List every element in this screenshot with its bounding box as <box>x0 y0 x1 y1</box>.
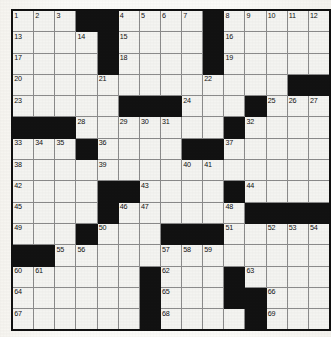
answer-cell[interactable] <box>76 309 97 331</box>
answer-cell[interactable] <box>139 160 160 181</box>
answer-cell[interactable]: 27 <box>308 96 330 117</box>
answer-cell[interactable] <box>245 223 266 244</box>
answer-cell[interactable] <box>266 266 287 287</box>
answer-cell[interactable] <box>308 138 330 159</box>
answer-cell[interactable] <box>139 223 160 244</box>
answer-cell[interactable] <box>287 287 308 308</box>
answer-cell[interactable]: 68 <box>160 309 181 331</box>
answer-cell[interactable] <box>266 181 287 202</box>
answer-cell[interactable]: 69 <box>266 309 287 331</box>
answer-cell[interactable] <box>245 74 266 95</box>
answer-cell[interactable] <box>97 117 118 138</box>
answer-cell[interactable]: 55 <box>55 245 76 266</box>
answer-cell[interactable] <box>308 32 330 53</box>
answer-cell[interactable]: 60 <box>12 266 34 287</box>
answer-cell[interactable] <box>245 53 266 74</box>
answer-cell[interactable]: 49 <box>12 223 34 244</box>
answer-cell[interactable] <box>55 287 76 308</box>
answer-cell[interactable] <box>118 160 139 181</box>
answer-cell[interactable] <box>203 287 224 308</box>
answer-cell[interactable] <box>308 181 330 202</box>
answer-cell[interactable] <box>266 32 287 53</box>
answer-cell[interactable] <box>76 74 97 95</box>
answer-cell[interactable] <box>203 309 224 331</box>
answer-cell[interactable]: 44 <box>245 181 266 202</box>
crossword-puzzle[interactable]: 1234567891011121314151617181920212223242… <box>11 9 331 331</box>
answer-cell[interactable]: 62 <box>160 266 181 287</box>
answer-cell[interactable]: 61 <box>34 266 55 287</box>
answer-cell[interactable] <box>97 287 118 308</box>
answer-cell[interactable] <box>76 53 97 74</box>
answer-cell[interactable] <box>182 287 203 308</box>
answer-cell[interactable] <box>287 309 308 331</box>
answer-cell[interactable]: 21 <box>97 74 118 95</box>
answer-cell[interactable]: 9 <box>245 10 266 32</box>
answer-cell[interactable] <box>308 287 330 308</box>
answer-cell[interactable] <box>266 138 287 159</box>
answer-cell[interactable] <box>182 117 203 138</box>
answer-cell[interactable] <box>139 138 160 159</box>
answer-cell[interactable] <box>139 74 160 95</box>
answer-cell[interactable] <box>55 202 76 223</box>
answer-cell[interactable]: 5 <box>139 10 160 32</box>
answer-cell[interactable]: 22 <box>203 74 224 95</box>
answer-cell[interactable] <box>118 287 139 308</box>
answer-cell[interactable]: 33 <box>12 138 34 159</box>
answer-cell[interactable] <box>34 309 55 331</box>
answer-cell[interactable] <box>245 160 266 181</box>
answer-cell[interactable] <box>118 266 139 287</box>
answer-cell[interactable] <box>55 223 76 244</box>
answer-cell[interactable] <box>34 74 55 95</box>
answer-cell[interactable]: 11 <box>287 10 308 32</box>
answer-cell[interactable]: 20 <box>12 74 34 95</box>
answer-cell[interactable] <box>34 160 55 181</box>
answer-cell[interactable]: 23 <box>12 96 34 117</box>
answer-cell[interactable]: 31 <box>160 117 181 138</box>
answer-cell[interactable] <box>97 309 118 331</box>
answer-cell[interactable]: 17 <box>12 53 34 74</box>
answer-cell[interactable]: 28 <box>76 117 97 138</box>
answer-cell[interactable] <box>287 117 308 138</box>
answer-cell[interactable] <box>34 181 55 202</box>
answer-cell[interactable] <box>182 32 203 53</box>
answer-cell[interactable] <box>308 309 330 331</box>
answer-cell[interactable] <box>203 181 224 202</box>
answer-cell[interactable]: 36 <box>97 138 118 159</box>
answer-cell[interactable]: 47 <box>139 202 160 223</box>
answer-cell[interactable] <box>160 202 181 223</box>
answer-cell[interactable] <box>203 96 224 117</box>
answer-cell[interactable]: 66 <box>266 287 287 308</box>
answer-cell[interactable] <box>245 138 266 159</box>
answer-cell[interactable] <box>160 138 181 159</box>
answer-cell[interactable] <box>245 32 266 53</box>
answer-cell[interactable] <box>55 53 76 74</box>
answer-cell[interactable] <box>287 181 308 202</box>
answer-cell[interactable] <box>266 74 287 95</box>
answer-cell[interactable] <box>224 245 245 266</box>
answer-cell[interactable] <box>55 32 76 53</box>
answer-cell[interactable]: 7 <box>182 10 203 32</box>
answer-cell[interactable] <box>266 245 287 266</box>
answer-cell[interactable] <box>55 74 76 95</box>
answer-cell[interactable]: 3 <box>55 10 76 32</box>
answer-cell[interactable] <box>76 202 97 223</box>
answer-cell[interactable]: 24 <box>182 96 203 117</box>
answer-cell[interactable] <box>182 53 203 74</box>
answer-cell[interactable] <box>182 309 203 331</box>
answer-cell[interactable] <box>287 138 308 159</box>
answer-cell[interactable] <box>182 266 203 287</box>
answer-cell[interactable]: 30 <box>139 117 160 138</box>
answer-cell[interactable]: 16 <box>224 32 245 53</box>
answer-cell[interactable]: 51 <box>224 223 245 244</box>
answer-cell[interactable] <box>118 138 139 159</box>
answer-cell[interactable]: 41 <box>203 160 224 181</box>
answer-cell[interactable]: 56 <box>76 245 97 266</box>
answer-cell[interactable] <box>118 309 139 331</box>
answer-cell[interactable]: 1 <box>12 10 34 32</box>
answer-cell[interactable] <box>55 96 76 117</box>
answer-cell[interactable] <box>34 223 55 244</box>
answer-cell[interactable] <box>139 32 160 53</box>
answer-cell[interactable] <box>160 160 181 181</box>
answer-cell[interactable]: 42 <box>12 181 34 202</box>
answer-cell[interactable] <box>224 309 245 331</box>
